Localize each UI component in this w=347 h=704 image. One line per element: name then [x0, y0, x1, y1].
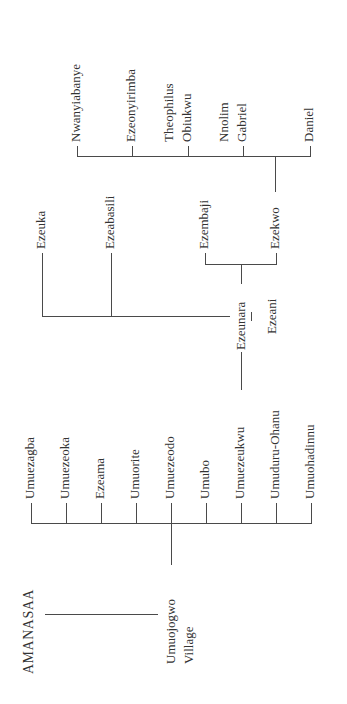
sibling-tick [111, 253, 112, 317]
kindred-label: Umuezagba [23, 437, 37, 499]
grandchild-tick [310, 146, 311, 157]
ezeunara-to-sons-connector [241, 264, 242, 284]
root-label-amanasaa: AMANASAA [22, 589, 36, 674]
root-connector [45, 614, 158, 615]
village-label-line2: Village [182, 627, 196, 664]
kindred-tick [101, 503, 102, 524]
grandchild-tick [188, 146, 189, 157]
ancestor-label-ezeani: Ezeani [265, 299, 279, 334]
kindred-tick [136, 503, 137, 524]
kindred-tick [241, 503, 242, 524]
kindred-label: Umuezeoka [58, 437, 72, 499]
sibling-tick [42, 253, 43, 317]
grandchild-tick [132, 146, 133, 157]
grandchild-tick [77, 146, 78, 157]
kindred-label: Umuohadinnu [303, 425, 317, 499]
sibling-bracket [42, 316, 230, 317]
sibling-label-ezeuka: Ezeuka [34, 211, 48, 249]
kindred-tick [311, 503, 312, 524]
kindred-tick [206, 503, 207, 524]
kindred-tick [276, 503, 277, 524]
son-label-ezembaji: Ezembaji [197, 200, 211, 249]
grandchild-label: Nwanyiabanye [69, 64, 83, 142]
village-connector [171, 523, 172, 565]
kindred-label: Ezeama [93, 458, 107, 499]
ezekwo-to-children-connector [275, 156, 276, 192]
sons-bracket [205, 264, 277, 265]
umuezeukwu-to-ezeunara-connector [241, 352, 242, 390]
son-tick [276, 253, 277, 265]
grandchild-label-line1: Theophilus [162, 84, 176, 143]
kindred-label: Umubo [198, 460, 212, 499]
grandchild-label-line2: Obiukwu [180, 94, 194, 142]
grandchild-label: Daniel [302, 107, 316, 142]
grandchild-label-line2: Gabriel [235, 103, 249, 142]
sibling-label-ezeabasili: Ezeabasili [103, 196, 117, 249]
son-label-ezekwo: Ezekwo [268, 207, 282, 249]
kindred-label: Umuduru-Ohanu [268, 410, 282, 499]
ancestor-label-ezeunara: Ezeunara [234, 302, 248, 350]
grandchild-label: Ezeonyirimba [124, 69, 138, 142]
village-label-line1: Umuojogwo [164, 599, 178, 664]
couple-separator [251, 312, 252, 321]
kindred-tick [31, 503, 32, 524]
kindred-label: Umuezeodo [163, 436, 177, 499]
kindred-label: Umuezeukwu [233, 427, 247, 499]
kindred-label: Umuorite [128, 449, 142, 499]
grandchildren-bracket [77, 156, 311, 157]
kindred-tick [171, 503, 172, 524]
son-tick [205, 253, 206, 265]
grandchild-tick [243, 146, 244, 157]
kindred-tick [66, 503, 67, 524]
grandchild-label-line1: Nnolim [217, 102, 231, 142]
